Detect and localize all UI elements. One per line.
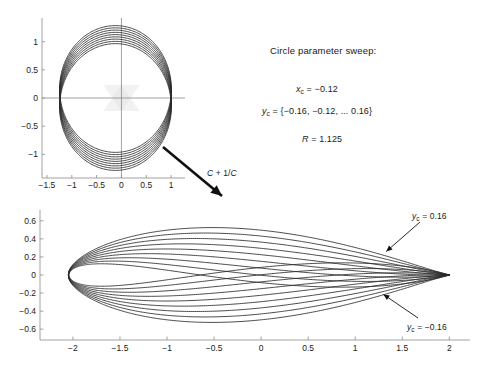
tick-label: −0.4: [19, 306, 36, 316]
airfoil-label-lower-subscript: c: [411, 326, 414, 333]
tick-label: 0: [119, 180, 124, 190]
tick-label: 1: [169, 180, 174, 190]
tick-label: 0.5: [140, 180, 152, 190]
tick-label: 0.4: [24, 234, 36, 244]
tick-label: 1: [353, 343, 358, 353]
tick-label: −2: [68, 343, 78, 353]
tick-label: 0: [259, 343, 264, 353]
tick-label: −0.6: [19, 324, 36, 334]
tick-label: 2: [447, 343, 452, 353]
annotation-arrow-shaft: [386, 222, 420, 252]
tick-label: 0.5: [302, 343, 314, 353]
airfoil-label-upper: yc = 0.16: [412, 211, 447, 221]
equation-xc: xc = −0.12: [296, 84, 338, 94]
equation-yc: yc = {−0.16, −0.12, ... 0.16}: [262, 106, 372, 116]
airfoil-label-lower: yc = −0.16: [407, 322, 447, 332]
tick-label: 0.2: [24, 252, 36, 262]
tick-label: 1.5: [396, 343, 408, 353]
transform-label-c2: C: [231, 168, 237, 178]
transform-arrow-label: C + 1/C: [207, 168, 237, 178]
circle-plot: −1.5−1−0.500.51−1−0.500.51: [21, 18, 185, 190]
parameter-block-heading: Circle parameter sweep:: [270, 45, 376, 56]
annotation-arrow-head: [383, 294, 389, 300]
tick-label: 0: [33, 93, 38, 103]
equation-yc-subscript: c: [267, 110, 270, 117]
tick-label: −1.5: [112, 343, 129, 353]
equation-yc-variable: y: [262, 106, 267, 116]
airfoil-plot: −2−1.5−1−0.500.511.52−0.6−0.4−0.200.20.4…: [19, 210, 470, 353]
tick-label: −0.5: [206, 343, 223, 353]
tick-label: 0.5: [26, 65, 38, 75]
equation-radius-variable: R: [302, 134, 309, 144]
equation-radius-value: = 1.125: [309, 134, 343, 144]
tick-label: −1.5: [39, 180, 56, 190]
transform-label-plus: + 1/: [213, 168, 230, 178]
tick-label: 0.6: [24, 216, 36, 226]
airfoil-label-lower-value: = −0.16: [415, 322, 447, 332]
airfoil-label-upper-value: = 0.16: [420, 211, 447, 221]
equation-xc-value: = −0.12: [304, 84, 338, 94]
joukowski-transform-figure: −1.5−1−0.500.51−1−0.500.51 −2−1.5−1−0.50…: [0, 0, 495, 376]
equation-radius: R = 1.125: [302, 134, 342, 144]
tick-label: 0: [31, 270, 36, 280]
tick-label: −1: [28, 149, 38, 159]
tick-label: 1: [33, 37, 38, 47]
equation-xc-subscript: c: [301, 88, 304, 95]
tick-label: −0.5: [21, 121, 38, 131]
equation-xc-variable: x: [296, 84, 301, 94]
airfoil-label-upper-subscript: c: [416, 215, 419, 222]
tick-label: −1: [162, 343, 172, 353]
figure-canvas: −1.5−1−0.500.51−1−0.500.51 −2−1.5−1−0.50…: [0, 0, 495, 376]
tick-label: −1: [67, 180, 77, 190]
annotation-arrow-shaft: [383, 294, 418, 318]
tick-label: −0.5: [88, 180, 105, 190]
tick-label: −0.2: [19, 288, 36, 298]
equation-yc-value: = {−0.16, −0.12, ... 0.16}: [270, 106, 372, 116]
